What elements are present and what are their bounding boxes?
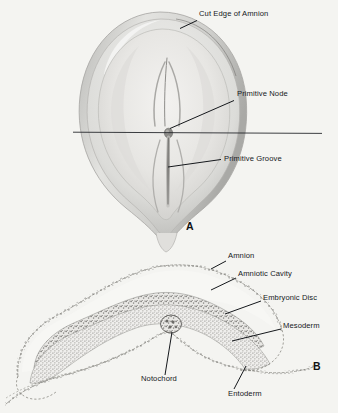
label-entoderm: Entoderm	[228, 390, 262, 398]
label-notochord: Notochord	[141, 375, 177, 383]
panel-a-artwork	[73, 12, 322, 252]
leader-notochord	[165, 332, 172, 375]
connecting-stalk	[156, 233, 177, 252]
label-mesoderm: Mesoderm	[283, 322, 320, 330]
label-cut-edge-of-amnion: Cut Edge of Amnion	[199, 10, 268, 18]
label-primitive-node: Primitive Node	[237, 90, 288, 98]
primitive-groove-core	[168, 138, 169, 204]
label-amnion: Amnion	[228, 252, 254, 260]
figure-artwork	[0, 0, 338, 413]
label-primitive-groove: Primitive Groove	[224, 155, 282, 163]
embryology-figure: Cut Edge of Amnion Primitive Node Primit…	[0, 0, 338, 413]
leader-amnion	[211, 261, 226, 269]
label-amniotic-cavity: Amniotic Cavity	[238, 270, 292, 278]
panel-marker-a: A	[186, 221, 194, 232]
panel-marker-b: B	[313, 361, 321, 372]
notochord-cluster	[161, 315, 182, 333]
label-embryonic-disc: Embryonic Disc	[263, 294, 317, 302]
